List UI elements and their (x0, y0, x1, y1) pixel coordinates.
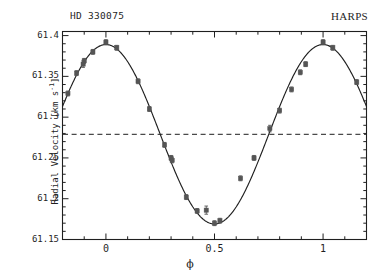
axis-ticks (63, 32, 367, 240)
radial-velocity-figure: HD 330075 HARPS Radial Velocity [km s-1]… (0, 0, 380, 278)
axes-frame (63, 32, 367, 240)
data-points (66, 40, 359, 225)
error-bars (66, 40, 358, 226)
plot-canvas (0, 0, 380, 278)
